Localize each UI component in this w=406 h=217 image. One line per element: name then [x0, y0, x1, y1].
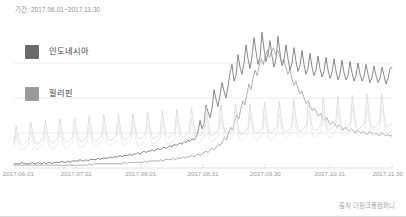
chart-legend: 인도네시아 필리핀	[25, 43, 145, 127]
x-axis-label: 2017.10.31	[314, 171, 345, 177]
legend-swatch-philippines	[25, 87, 39, 101]
x-axis-tick-marks	[76, 164, 392, 168]
legend-item-indonesia[interactable]: 인도네시아	[25, 43, 145, 61]
legend-label-indonesia: 인도네시아	[49, 48, 89, 56]
x-axis-labels: 2017.06.012017.07.012017.08.012017.08.31…	[14, 171, 392, 183]
legend-item-philippines[interactable]: 필리핀	[25, 85, 145, 103]
x-axis-label: 2017.08.01	[125, 171, 156, 177]
x-axis-label: 2017.08.31	[188, 171, 219, 177]
legend-swatch-indonesia	[25, 45, 39, 59]
x-axis-label: 2017.09.30	[250, 171, 281, 177]
legend-label-philippines: 필리핀	[49, 90, 73, 98]
source-attribution: 출처 더핑크퐁컴퍼니	[339, 203, 395, 209]
x-axis-label: 2017.11.30	[372, 171, 403, 177]
x-axis-label: 2017.07.01	[61, 171, 92, 177]
period-label: 기간: 2017.06.01~2017.11.30	[15, 7, 100, 13]
x-axis-label: 2017.06.01	[3, 171, 34, 177]
trend-chart-card: 기간: 2017.06.01~2017.11.30 인도네시아 필리핀 2017…	[0, 0, 406, 217]
